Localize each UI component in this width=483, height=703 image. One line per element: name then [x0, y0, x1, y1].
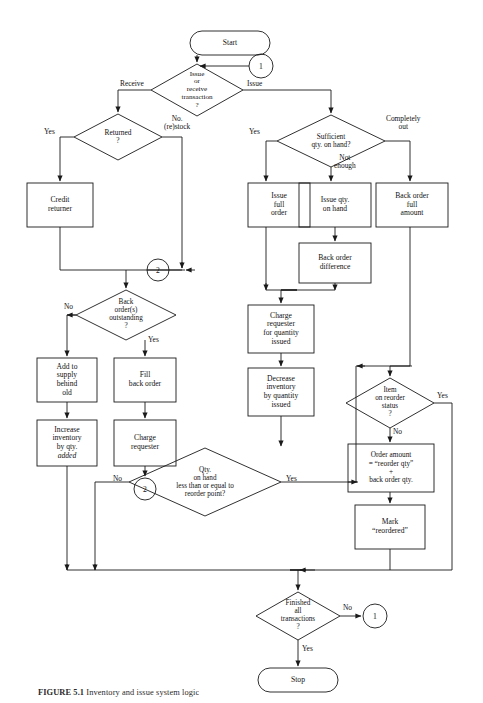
edge-label-issue: Issue [247, 80, 262, 88]
edge-item-yes-down [434, 403, 452, 570]
edge-label-reorder-no: No [393, 428, 402, 436]
process-back-order-difference [299, 243, 371, 283]
process-charge-requester-qty-issued [248, 305, 314, 353]
edge-qty-no-down [95, 482, 129, 570]
edge-label-qty-yes: Yes [286, 475, 297, 483]
connector-2-mid-label: 2 [147, 259, 169, 281]
process-issue-full-order [248, 183, 310, 227]
terminal-start [190, 31, 270, 55]
connector-1-bottom-label: 1 [363, 604, 387, 628]
edge-label-completely-out: Completely out [386, 115, 421, 132]
edge-label-returned-yes: Yes [44, 128, 55, 136]
edge-label-finished-no: No [343, 604, 352, 612]
edge-issue-to-sufficient [243, 90, 331, 113]
process-charge-requester [114, 420, 176, 466]
edge-label-backorders-no: No [64, 303, 73, 311]
figure-caption: FIGURE 5.1 Inventory and issue system lo… [38, 688, 199, 703]
edge-backorders-no [67, 315, 76, 356]
edge-returned-yes-to-credit [60, 137, 74, 181]
decision-finished-all-transactions [256, 592, 340, 640]
edge-sufficient-yes [266, 141, 277, 181]
process-order-amount [348, 444, 434, 492]
process-add-to-supply [37, 358, 97, 402]
decision-sufficient-qty [277, 115, 385, 167]
process-back-order-full-amount [376, 183, 448, 227]
decision-issue-or-receive [151, 64, 243, 116]
process-increase-inventory [37, 420, 97, 466]
connector-2-left-label: 2 [134, 478, 156, 500]
decision-item-on-reorder-status [346, 378, 434, 428]
edge-label-sufficient-yes: Yes [249, 128, 260, 136]
edge-label-backorders-yes: Yes [148, 336, 159, 344]
edge-label-qty-no: No [113, 475, 122, 483]
process-mark-reordered [355, 505, 425, 549]
process-fill-back-order [114, 358, 176, 402]
process-credit-returner [27, 183, 93, 227]
decision-back-orders-outstanding [76, 290, 176, 340]
connector-1-top-label: 1 [249, 54, 273, 78]
edge-returned-no-to-junction [162, 137, 182, 268]
edge-receive-to-returned [118, 90, 151, 112]
edge-label-finished-yes: Yes [302, 645, 313, 653]
edge-label-receive: Receive [120, 80, 144, 88]
figure-caption-label: FIGURE 5.1 [38, 688, 84, 697]
flowchart-diagram: Start 1 Issue or receive transaction ? R… [0, 0, 483, 703]
decision-returned [74, 114, 162, 160]
figure-caption-text: Inventory and issue system logic [86, 688, 199, 697]
edge-sufficient-completely-out [385, 141, 410, 181]
edge-label-reorder-yes: Yes [437, 392, 448, 400]
flowchart-canvas [0, 0, 483, 703]
edge-label-no-restock: No. (re)stock [164, 115, 190, 132]
edge-credit-to-junction [60, 227, 126, 270]
edge-label-not-enough: Not enough [334, 154, 356, 171]
edge-to-item-reorder [390, 366, 410, 376]
process-decrease-inventory [248, 368, 314, 416]
terminal-stop [258, 668, 338, 692]
